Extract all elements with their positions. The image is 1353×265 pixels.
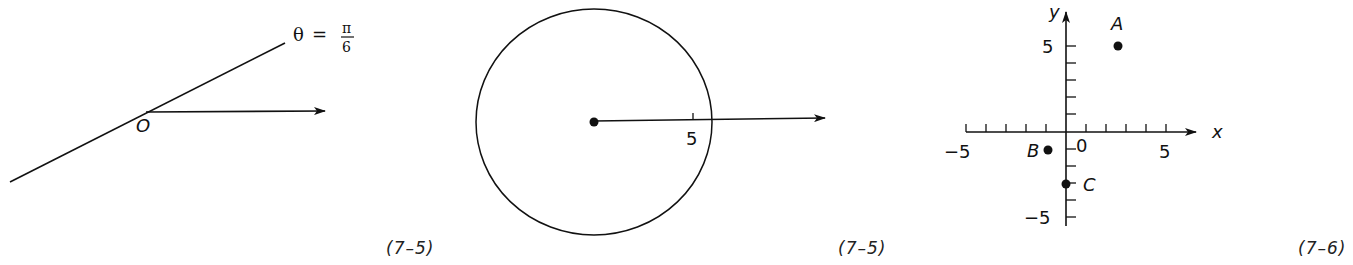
y-tick-label-neg5: −5 <box>1024 207 1051 228</box>
point-c <box>1062 180 1071 189</box>
point-b-label: B <box>1027 140 1039 161</box>
polar-axis-arrow <box>146 111 325 112</box>
fraction-denominator: 6 <box>342 39 351 55</box>
tick-label-5: 5 <box>686 128 697 149</box>
figure-cartesian-points: x y −5 0 5 5 −5 A B C (7–6) <box>944 1 1346 258</box>
point-a-label: A <box>1110 13 1123 34</box>
point-b <box>1044 146 1053 155</box>
x-tick-label-5: 5 <box>1159 141 1170 162</box>
origin-label: O <box>136 115 150 136</box>
polar-axis-arrow <box>594 118 825 121</box>
equals-sign: = <box>312 24 327 45</box>
figure-caption: (7–5) <box>386 238 434 258</box>
theta-symbol: θ <box>293 24 304 45</box>
y-axis-label: y <box>1048 1 1060 22</box>
diagram-canvas: O θ = π 6 (7–5) 5 (7–5) <box>0 0 1353 265</box>
x-tick-label-0: 0 <box>1076 135 1087 156</box>
point-a <box>1114 42 1123 51</box>
figure-polar-circle: 5 (7–5) <box>476 9 886 258</box>
figure-polar-line: O θ = π 6 (7–5) <box>10 20 434 258</box>
x-axis-label: x <box>1211 121 1223 142</box>
point-c-label: C <box>1083 174 1096 195</box>
figure-caption: (7–5) <box>838 238 886 258</box>
figure-caption: (7–6) <box>1298 238 1346 258</box>
pole-dot <box>590 118 599 127</box>
fraction-numerator: π <box>342 20 351 36</box>
y-tick-label-5: 5 <box>1042 36 1053 57</box>
x-tick-label-neg5: −5 <box>944 141 971 162</box>
